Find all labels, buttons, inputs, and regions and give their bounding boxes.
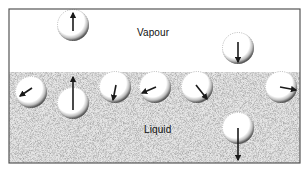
molecule (181, 71, 213, 103)
molecule (57, 9, 89, 41)
vapour-label: Vapour (137, 27, 169, 38)
evaporation-diagram (0, 0, 304, 169)
molecule-sphere (15, 76, 47, 108)
molecule (265, 71, 297, 103)
liquid-label: Liquid (144, 124, 171, 135)
molecule (99, 71, 131, 103)
molecule (139, 71, 171, 103)
vapour-region (9, 9, 300, 72)
molecule (222, 32, 254, 64)
molecule (15, 76, 47, 108)
